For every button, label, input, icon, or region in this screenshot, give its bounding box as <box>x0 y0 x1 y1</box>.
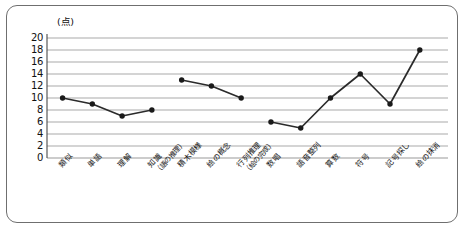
series-segment-1 <box>182 80 242 98</box>
data-point <box>149 107 154 112</box>
data-point <box>298 125 303 130</box>
data-point <box>90 101 95 106</box>
data-point <box>60 95 65 100</box>
data-point <box>268 119 273 124</box>
data-point <box>119 113 124 118</box>
data-point-group <box>60 47 423 130</box>
data-point <box>387 101 392 106</box>
data-point <box>328 95 333 100</box>
data-point <box>238 95 243 100</box>
line-chart-svg <box>0 0 466 230</box>
data-point <box>179 77 184 82</box>
data-point <box>209 83 214 88</box>
chart-plot-area: (点) 20181614121086420 類似単語理解知識（語の推理）積木模様… <box>0 0 466 230</box>
series-segment-0 <box>63 98 152 116</box>
data-point <box>417 47 422 52</box>
data-point <box>358 71 363 76</box>
gridline-group <box>47 38 448 158</box>
